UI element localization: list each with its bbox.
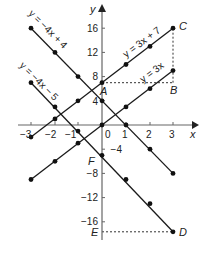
- point-label-e: E: [91, 226, 99, 238]
- x-axis-label: x: [189, 128, 196, 140]
- coordinate-graph: −3 −2 −1 0 1 2 3 16 12 8 4 −4 −8 −12 −16…: [0, 0, 206, 256]
- y-tick-label: 12: [87, 47, 99, 58]
- x-tick-label: 3: [169, 129, 175, 140]
- y-axis-arrow-icon: [98, 4, 106, 12]
- point-label-b: B: [170, 84, 177, 96]
- x-tick-labels: −3 −2 −1 0 1 2 3: [20, 129, 175, 140]
- y-tick-label: −12: [81, 192, 98, 203]
- x-tick-label: −3: [20, 129, 32, 140]
- point-label-c: C: [179, 20, 187, 32]
- x-tick-label: 0: [105, 129, 111, 140]
- x-tick-label: −2: [45, 129, 57, 140]
- y-tick-label: −4: [111, 144, 123, 155]
- point-label-d: D: [179, 226, 187, 238]
- y-tick-label: 8: [92, 71, 98, 82]
- y-axis-label: y: [89, 3, 97, 15]
- y-tick-label: 4: [92, 96, 98, 107]
- axes: [18, 10, 192, 240]
- point-label-a: A: [99, 85, 107, 97]
- x-tick-label: 2: [146, 129, 152, 140]
- point-label-f: F: [88, 155, 96, 167]
- equation-label-3x: y = 3x: [138, 60, 166, 85]
- dashed-guides: [102, 28, 173, 232]
- y-tick-label: −8: [87, 168, 99, 179]
- x-tick-label: 1: [122, 129, 128, 140]
- equation-label-neg4x-minus5: y = −4x − 5: [18, 60, 61, 103]
- equation-label-3x-plus7: y = 3x + 7: [121, 24, 163, 59]
- y-tick-label: 16: [87, 23, 99, 34]
- x-tick-label: −1: [65, 129, 77, 140]
